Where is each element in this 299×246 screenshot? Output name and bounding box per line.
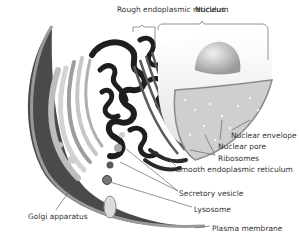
- label-lysosome: Lysosome: [194, 205, 231, 214]
- label-nuclear-envelope: Nuclear envelope: [231, 131, 297, 140]
- label-plasma-membrane: Plasma membrane: [212, 224, 282, 233]
- label-ribosomes: Ribosomes: [218, 154, 259, 163]
- label-nucleus: Nucleus: [195, 5, 225, 14]
- cell-illustration: [0, 0, 299, 246]
- label-smooth-er: Smooth endoplasmic reticulum: [176, 165, 293, 174]
- label-nuclear-pore: Nuclear pore: [218, 142, 266, 151]
- label-golgi-apparatus: Golgi apparatus: [28, 212, 88, 221]
- cell-diagram: Rough endoplasmic reticulum Nucleus Nucl…: [0, 0, 299, 246]
- label-secretory-vesicle: Secretory vesicle: [179, 189, 243, 198]
